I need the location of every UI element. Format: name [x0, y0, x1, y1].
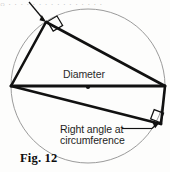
- leader-arrow-top: [29, 2, 46, 22]
- figure-container: ○ · · · · · · · · · · · · · · · ·: [0, 0, 170, 172]
- lower-triangle-side-left: [11, 86, 161, 124]
- lower-triangle: [11, 86, 165, 124]
- label-diameter: Diameter: [63, 69, 105, 80]
- upper-triangle-side-left: [11, 22, 46, 86]
- leader-arrow-bottom: [122, 122, 160, 129]
- label-right-angle-at-circumference: Right angle at circumference: [60, 124, 125, 147]
- figure-caption: Fig. 12: [20, 152, 58, 166]
- label-right-angle-line-2: circumference: [60, 135, 125, 146]
- circle-centre-dot: [86, 85, 90, 89]
